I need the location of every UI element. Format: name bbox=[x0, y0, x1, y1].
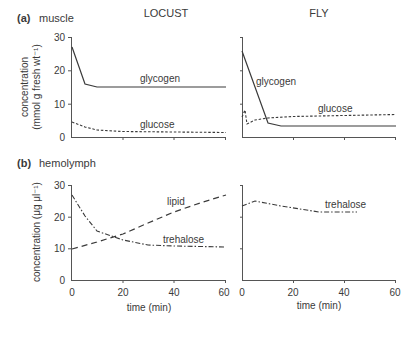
svg-text:0: 0 bbox=[59, 132, 65, 143]
label-locust-glucose: glucose bbox=[140, 119, 175, 130]
svg-text:20: 20 bbox=[117, 287, 129, 298]
x-axis-label-fly: time (min) bbox=[297, 300, 341, 311]
svg-text:20: 20 bbox=[54, 65, 66, 76]
x-ticks-locust: 0 20 40 60 bbox=[69, 287, 230, 298]
svg-text:20: 20 bbox=[287, 287, 299, 298]
column-title-fly: FLY bbox=[309, 7, 329, 19]
svg-text:0: 0 bbox=[239, 287, 245, 298]
svg-text:30: 30 bbox=[54, 32, 66, 43]
svg-text:0: 0 bbox=[69, 287, 75, 298]
svg-text:10: 10 bbox=[54, 243, 66, 254]
panel-b-label: (b) bbox=[17, 157, 31, 169]
column-title-locust: LOCUST bbox=[144, 7, 189, 19]
y-axis-label-b: concentration (μg μl⁻¹) bbox=[31, 182, 42, 282]
figure: LOCUST FLY (a) muscle (b) hemolymph conc… bbox=[0, 0, 417, 339]
line-fly-glycogen bbox=[242, 51, 396, 126]
x-ticks-fly: 0 20 40 60 bbox=[239, 287, 401, 298]
label-fly-trehalose: trehalose bbox=[325, 199, 367, 210]
svg-text:0: 0 bbox=[59, 275, 65, 286]
svg-text:40: 40 bbox=[168, 287, 180, 298]
panel-b-title: hemolymph bbox=[39, 157, 96, 169]
y-ticks-a: 0 10 20 30 bbox=[54, 32, 66, 143]
label-locust-trehalose: trehalose bbox=[163, 234, 205, 245]
panel-a-label: (a) bbox=[17, 12, 31, 24]
y-axis-label-a-line2: (mmol g fresh wt⁻¹) bbox=[31, 44, 42, 130]
label-locust-lipid: lipid bbox=[167, 196, 185, 207]
y-ticks-b: 0 10 20 30 bbox=[54, 180, 66, 286]
axes-fly-b bbox=[240, 185, 396, 283]
svg-text:10: 10 bbox=[54, 99, 66, 110]
axes-fly-a bbox=[240, 37, 396, 140]
svg-text:30: 30 bbox=[54, 180, 66, 191]
label-locust-glycogen: glycogen bbox=[140, 73, 180, 84]
y-axis-label-a-line1: concentration bbox=[19, 57, 30, 117]
svg-text:60: 60 bbox=[389, 287, 401, 298]
svg-text:20: 20 bbox=[54, 212, 66, 223]
x-axis-label-locust: time (min) bbox=[127, 302, 171, 313]
svg-text:40: 40 bbox=[338, 287, 350, 298]
svg-text:60: 60 bbox=[218, 287, 230, 298]
panel-a-title: muscle bbox=[39, 12, 74, 24]
label-fly-glycogen: glycogen bbox=[256, 76, 296, 87]
label-fly-glucose: glucose bbox=[318, 103, 353, 114]
